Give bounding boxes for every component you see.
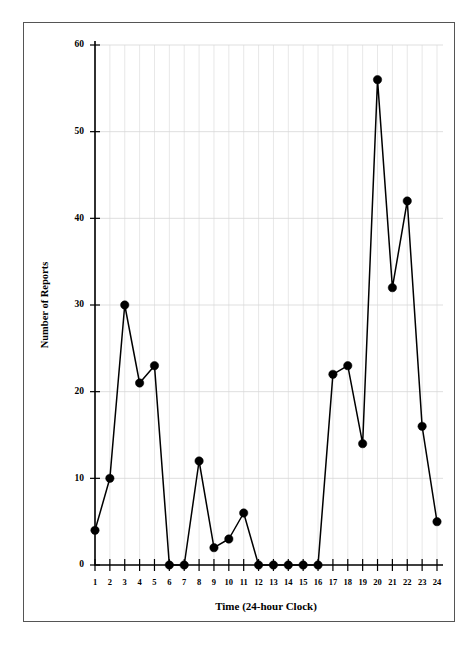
x-axis-tick-labels: 123456789101112131415161718192021222324 bbox=[93, 577, 442, 587]
x-axis-tick-label: 2 bbox=[108, 577, 112, 587]
x-axis-tick-label: 10 bbox=[225, 577, 234, 587]
y-axis-tick-label: 30 bbox=[75, 299, 85, 309]
data-point-marker bbox=[373, 75, 381, 83]
data-point-marker bbox=[225, 535, 233, 543]
data-point-marker bbox=[314, 561, 322, 569]
y-axis-tick-label: 60 bbox=[75, 39, 85, 49]
x-axis-tick-label: 3 bbox=[123, 577, 127, 587]
data-point-marker bbox=[135, 379, 143, 387]
y-axis-tick-labels: 0102030405060 bbox=[75, 39, 85, 569]
x-axis-tick-label: 11 bbox=[240, 577, 248, 587]
y-axis-tick-label: 40 bbox=[75, 213, 85, 223]
data-point-marker bbox=[269, 561, 277, 569]
x-axis-tick-label: 20 bbox=[373, 577, 382, 587]
x-axis-tick-label: 23 bbox=[418, 577, 427, 587]
y-axis-title: Number of Reports bbox=[39, 262, 50, 349]
series-line-reports bbox=[95, 80, 437, 565]
data-point-marker bbox=[433, 517, 441, 525]
x-axis-tick-label: 13 bbox=[269, 577, 278, 587]
data-point-marker bbox=[329, 370, 337, 378]
x-axis-tick-label: 6 bbox=[167, 577, 171, 587]
data-point-marker bbox=[210, 543, 218, 551]
line-chart: 0102030405060 12345678910111213141516171… bbox=[0, 0, 476, 647]
y-axis-tick-label: 0 bbox=[79, 559, 84, 569]
data-point-marker bbox=[388, 283, 396, 291]
x-axis-tick-label: 18 bbox=[344, 577, 353, 587]
data-point-marker bbox=[358, 439, 366, 447]
data-point-marker bbox=[418, 422, 426, 430]
x-axis-tick-label: 16 bbox=[314, 577, 323, 587]
x-axis-tick-label: 21 bbox=[388, 577, 397, 587]
data-point-marker bbox=[344, 361, 352, 369]
y-axis-tick-label: 50 bbox=[75, 126, 85, 136]
x-axis-tick-label: 22 bbox=[403, 577, 412, 587]
figure-page: 0102030405060 12345678910111213141516171… bbox=[0, 0, 476, 647]
data-point-marker bbox=[106, 474, 114, 482]
x-axis-title: Time (24-hour Clock) bbox=[215, 600, 317, 613]
axis-spine bbox=[95, 41, 443, 565]
data-point-marker bbox=[165, 561, 173, 569]
x-axis-tick-label: 4 bbox=[137, 577, 142, 587]
data-point-marker bbox=[91, 526, 99, 534]
y-axis-tick-label: 10 bbox=[75, 473, 85, 483]
data-point-markers bbox=[91, 75, 441, 569]
data-series bbox=[95, 80, 437, 565]
x-axis-tick-label: 1 bbox=[93, 577, 97, 587]
data-point-marker bbox=[180, 561, 188, 569]
x-axis-tick-label: 8 bbox=[197, 577, 201, 587]
data-point-marker bbox=[254, 561, 262, 569]
x-axis-tick-label: 12 bbox=[254, 577, 263, 587]
x-axis-tick-label: 17 bbox=[329, 577, 338, 587]
chart-plot-area: 0102030405060 12345678910111213141516171… bbox=[0, 0, 476, 647]
x-axis-tick-label: 19 bbox=[358, 577, 367, 587]
x-axis-tick-label: 7 bbox=[182, 577, 187, 587]
x-axis-tick-label: 15 bbox=[299, 577, 308, 587]
x-axis-tick-label: 24 bbox=[433, 577, 442, 587]
data-point-marker bbox=[240, 509, 248, 517]
data-point-marker bbox=[195, 457, 203, 465]
data-point-marker bbox=[403, 197, 411, 205]
data-point-marker bbox=[121, 301, 129, 309]
x-axis-tick-label: 9 bbox=[212, 577, 216, 587]
y-axis-tick-label: 20 bbox=[75, 386, 85, 396]
x-axis-tick-label: 5 bbox=[152, 577, 156, 587]
axis-lines bbox=[95, 41, 443, 565]
data-point-marker bbox=[150, 361, 158, 369]
data-point-marker bbox=[284, 561, 292, 569]
data-point-marker bbox=[299, 561, 307, 569]
x-axis-tick-label: 14 bbox=[284, 577, 293, 587]
